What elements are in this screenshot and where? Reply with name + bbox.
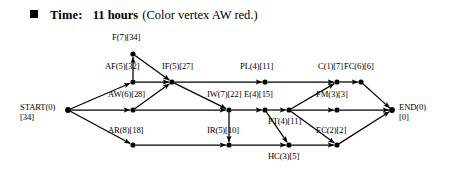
node-label-ar: AR(8)[18] [108,126,143,135]
edge-FC-to-END [363,84,390,108]
node-label-pt: PT(4)[11] [268,117,301,126]
node-dot-end [389,107,395,113]
node-label-hc: HC(3)[5] [268,152,299,161]
node-label-ir: IR(5)[10] [207,126,239,135]
edge-EC-to-END [339,112,389,144]
node-label-text: FM(3)[3] [316,90,348,99]
node-label-text: E(4)[15] [244,90,273,99]
node-label-text: PT(4)[11] [268,117,301,126]
node-label-text: EC(2)[2] [316,126,346,135]
node-label-f: F(7)[34] [112,33,140,42]
node-dot-fm [334,107,339,112]
node-label-end: END(0)[0] [399,103,426,123]
node-label-text: F(7)[34] [112,33,140,42]
node-dot-pt [286,107,291,112]
node-dot-pl [262,79,267,84]
node-label-slack: [34] [20,113,55,123]
node-dot-e [262,107,267,112]
node-label-aw: AW(6)[28] [108,90,145,99]
node-label-fc: FC(6)[6] [344,62,374,71]
node-label-c: C(1)[7] [318,62,343,71]
node-label-pl: PL(4)[11] [240,62,273,71]
node-dot-start [65,107,71,113]
node-label-text: IF(5)[27] [162,62,193,71]
diagram-page: Time: 11 hours (Color vertex AW red.) ST… [0,0,450,179]
node-label-text: PL(4)[11] [240,62,273,71]
node-label-text: AR(8)[18] [108,126,143,135]
node-label-text: IW(7)[22] [207,90,241,99]
node-label-start: START(0)[34] [20,103,55,123]
node-label-e: E(4)[15] [244,90,273,99]
node-dot-c [334,79,339,84]
node-label-slack: [0] [399,113,426,123]
node-dot-if [169,79,174,84]
node-dot-af [130,79,135,84]
node-dot-hc [286,142,291,147]
node-label-text: FC(6)[6] [344,62,374,71]
node-label-text: AF(5)[32] [105,62,139,71]
node-label-if: IF(5)[27] [162,62,193,71]
node-dot-fc [358,79,363,84]
node-dot-ir [226,142,231,147]
node-label-text: AW(6)[28] [108,90,145,99]
node-dot-f [130,51,135,56]
node-label-text: IR(5)[10] [207,126,239,135]
node-label-fm: FM(3)[3] [316,90,348,99]
node-label-text: HC(3)[5] [268,152,299,161]
node-label-af: AF(5)[32] [105,62,139,71]
node-dot-aw [130,107,135,112]
node-dot-ec [334,142,339,147]
node-dot-ar [130,142,135,147]
node-label-text: C(1)[7] [318,62,343,71]
node-dot-iw [226,107,231,112]
node-label-ec: EC(2)[2] [316,126,346,135]
node-label-iw: IW(7)[22] [207,90,241,99]
